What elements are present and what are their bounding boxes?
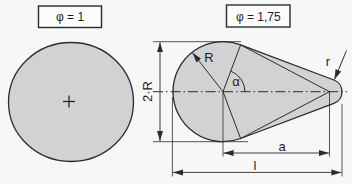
2R-dimension-label: 2·R (140, 81, 155, 102)
tip-radius-leader (335, 51, 347, 80)
tip-radius-label: r (326, 54, 331, 69)
teardrop-figure: φ = 1,75 R α r 2·R a l (140, 5, 348, 177)
left-caption-text: φ = 1 (56, 10, 84, 24)
l-dimension-label: l (254, 158, 257, 173)
alpha-label: α (232, 74, 240, 89)
fineness-ratio-diagram: φ = 1 φ = 1,75 R α r 2·R (0, 0, 352, 184)
a-dimension-label: a (278, 139, 286, 154)
right-caption-text: φ = 1,75 (236, 10, 281, 24)
radius-R-label: R (204, 50, 213, 65)
circle-figure: φ = 1 (9, 6, 134, 162)
